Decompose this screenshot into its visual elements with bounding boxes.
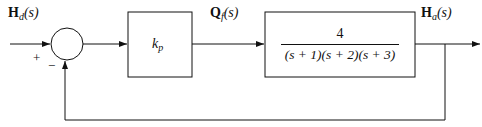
output-signal-label: Ha(s) [421, 5, 452, 22]
plant-transfer-function: 4 (s + 1)(s + 2)(s + 3) [265, 12, 415, 77]
intermediate-signal-label: Qf(s) [210, 5, 238, 22]
plus-sign: + [33, 50, 40, 66]
summing-junction [51, 28, 83, 60]
controller-gain-label: kp [152, 36, 163, 53]
numerator: 4 [337, 26, 344, 44]
minus-sign: − [48, 58, 55, 74]
denominator: (s + 1)(s + 2)(s + 3) [285, 45, 396, 63]
input-signal-label: Hd(s) [8, 5, 39, 22]
